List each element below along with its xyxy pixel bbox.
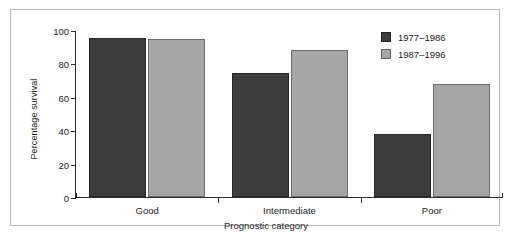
y-tick-40 [71, 131, 76, 132]
y-axis-title: Percentage survival [29, 49, 39, 189]
y-tick-0 [71, 198, 76, 199]
legend-entry-1: 1987–1996 [381, 47, 491, 61]
y-tick-label-60: 60 [39, 92, 69, 103]
x-tick-separator-1 [218, 198, 219, 203]
bar-poor-1987–1996 [433, 84, 490, 197]
x-tick-separator-2 [361, 198, 362, 203]
bar-poor-1977–1986 [374, 134, 431, 197]
y-tick-label-40: 40 [39, 126, 69, 137]
x-axis-right-cap [502, 193, 503, 198]
y-tick-20 [71, 165, 76, 166]
group-label-good: Good [136, 205, 159, 216]
legend-label-1: 1987–1996 [398, 49, 446, 60]
y-tick-100 [71, 31, 76, 32]
y-axis-line [75, 31, 76, 198]
y-tick-label-100: 100 [39, 26, 69, 37]
legend-swatch-icon-0 [381, 32, 391, 42]
y-tick-label-0: 0 [39, 193, 69, 204]
bar-intermediate-1987–1996 [291, 50, 348, 197]
figure: Percentage survival Prognostic category … [0, 0, 515, 240]
legend-entry-0: 1977–1986 [381, 30, 491, 44]
y-tick-label-80: 80 [39, 59, 69, 70]
bar-intermediate-1977–1986 [232, 73, 289, 197]
y-tick-label-20: 20 [39, 159, 69, 170]
y-tick-80 [71, 64, 76, 65]
legend-label-0: 1977–1986 [398, 32, 446, 43]
group-label-poor: Poor [422, 205, 442, 216]
legend: 1977–1986 1987–1996 [381, 30, 491, 64]
x-axis-line [76, 197, 503, 198]
x-axis-left-cap [76, 193, 77, 198]
y-tick-60 [71, 98, 76, 99]
figure-frame: Percentage survival Prognostic category … [10, 9, 500, 226]
bar-good-1977–1986 [89, 38, 146, 197]
bar-good-1987–1996 [148, 39, 205, 197]
legend-swatch-icon-1 [381, 49, 391, 59]
group-label-intermediate: Intermediate [263, 205, 316, 216]
x-axis-title: Prognostic category [41, 220, 491, 231]
